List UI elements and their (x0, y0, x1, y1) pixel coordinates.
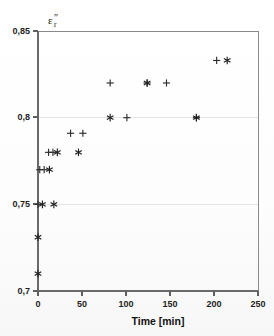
data-point-plus (79, 130, 86, 137)
x-axis-title: Time [min] (132, 315, 185, 327)
ytick-label-0.7: 0,7 (17, 286, 30, 296)
xtick-label-150: 150 (162, 299, 177, 309)
y-axis-title-epsilon: ε (48, 14, 53, 26)
y-axis-title: ε r ″ (48, 12, 58, 29)
data-point-markers (34, 57, 230, 278)
data-point-plus (49, 149, 56, 156)
data-point-plus (41, 166, 48, 173)
figure-container: 0,85 0,8 0,75 0,7 0 50 100 150 200 250 T… (0, 0, 274, 336)
data-point-plus (67, 130, 74, 137)
scatter-plot-canvas: 0,85 0,8 0,75 0,7 0 50 100 150 200 250 T… (0, 0, 274, 336)
data-point-plus (163, 79, 170, 86)
data-point-star (107, 114, 114, 122)
y-axis-ticks (33, 31, 38, 291)
y-axis-title-prime: ″ (54, 12, 58, 23)
data-point-plus (34, 201, 41, 208)
x-axis-ticks (38, 291, 258, 296)
xtick-label-200: 200 (206, 299, 221, 309)
ytick-label-0.8: 0,8 (17, 112, 30, 122)
x-tick-labels: 0 50 100 150 200 250 (35, 299, 265, 309)
data-point-star (35, 233, 42, 241)
xtick-label-0: 0 (35, 299, 40, 309)
xtick-label-250: 250 (250, 299, 265, 309)
y-tick-labels: 0,85 0,8 0,75 0,7 (12, 26, 30, 296)
data-point-star (75, 149, 82, 157)
ytick-label-0.75: 0,75 (12, 199, 30, 209)
data-point-plus (123, 114, 130, 121)
data-point-plus (107, 79, 114, 86)
xtick-label-100: 100 (118, 299, 133, 309)
data-point-plus (213, 57, 220, 64)
plot-frame (38, 31, 258, 291)
data-point-star (35, 270, 42, 278)
ytick-label-0.85: 0,85 (12, 26, 30, 36)
xtick-label-50: 50 (77, 299, 87, 309)
data-point-star (224, 57, 231, 65)
